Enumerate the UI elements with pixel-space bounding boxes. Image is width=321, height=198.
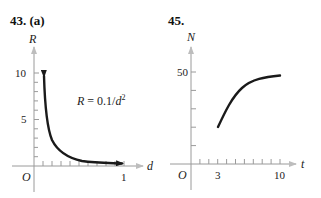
y-ticks	[191, 72, 196, 146]
figure-43a: 43. (a) R 10 5	[10, 13, 154, 192]
y-tick-label-50: 50	[177, 66, 189, 78]
x-axis-label: t	[301, 157, 305, 171]
x-tick-label-1: 1	[121, 171, 127, 183]
y-ticks	[34, 73, 39, 157]
x-ticks	[200, 159, 280, 164]
y-axis-label: R	[28, 32, 37, 46]
figure-label: 45.	[168, 13, 184, 28]
origin-label: O	[22, 170, 31, 184]
figure-label: 43. (a)	[10, 13, 45, 28]
figure-45: 45. N 50 O 3 10 t	[168, 13, 305, 190]
y-tick-label-10: 10	[15, 67, 27, 79]
equation-label: R = 0.1/d2	[76, 93, 125, 108]
x-tick-label-10: 10	[274, 169, 286, 181]
y-axis-label: N	[186, 30, 196, 44]
origin-label: O	[178, 168, 187, 182]
curve-R	[44, 76, 122, 164]
x-tick-label-3: 3	[215, 169, 221, 181]
y-tick-label-5: 5	[21, 113, 27, 125]
x-axis-label: d	[147, 159, 154, 173]
curve-N	[218, 76, 280, 128]
figure-canvas: 43. (a) R 10 5	[0, 0, 321, 198]
